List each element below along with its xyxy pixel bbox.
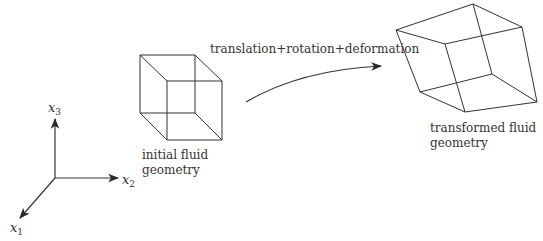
initial-label-line1: initial fluid	[142, 148, 208, 163]
coordinate-axes	[20, 119, 118, 218]
initial-label-line2: geometry	[142, 163, 208, 178]
final-label-line1: transformed fluid	[430, 121, 536, 136]
x1-axis	[20, 178, 55, 218]
initial-cube	[140, 55, 222, 140]
transformation-arrow	[246, 66, 381, 102]
transformation-label: translation+rotation+deformation	[210, 42, 419, 57]
x3-axis-label: x3	[48, 100, 61, 117]
x2-axis-label: x2	[122, 172, 135, 189]
x1-axis-label: x1	[10, 220, 23, 237]
transformed-cube	[396, 4, 537, 112]
initial-geometry-label: initial fluid geometry	[142, 148, 208, 178]
final-label-line2: geometry	[430, 136, 536, 151]
transformed-geometry-label: transformed fluid geometry	[430, 121, 536, 151]
